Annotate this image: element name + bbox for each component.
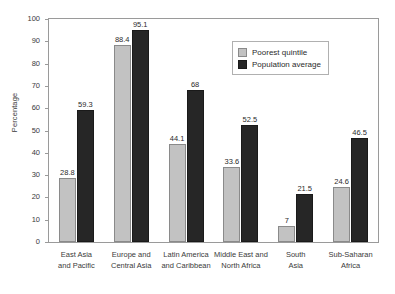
y-axis-tick-label: 60 (10, 104, 40, 112)
bar-value-label: 46.5 (346, 128, 373, 137)
legend-item[interactable]: Poorest quintile (238, 46, 321, 58)
legend-item-label: Population average (252, 60, 321, 69)
bar-value-label: 52.5 (236, 115, 263, 124)
y-axis-tick-label: 70 (10, 82, 40, 90)
bar-chart: Percentage 1009080706050403020100 28.859… (0, 0, 395, 294)
y-axis-tick-label: 0 (10, 238, 40, 246)
y-axis-tick-label: 30 (10, 171, 40, 179)
bar[interactable] (351, 138, 368, 242)
bar-value-label: 95.1 (127, 20, 154, 29)
bar[interactable] (296, 194, 313, 242)
legend-item-label: Poorest quintile (252, 48, 307, 57)
y-axis-tick-label: 90 (10, 37, 40, 45)
y-axis-tick-label: 40 (10, 149, 40, 157)
bar[interactable] (132, 30, 149, 242)
legend-item[interactable]: Population average (238, 58, 321, 70)
bar[interactable] (278, 226, 295, 242)
bar-group: 24.646.5 (323, 19, 378, 242)
x-axis-label-line: Africa (315, 261, 386, 272)
legend-swatch-icon (238, 60, 247, 69)
bar[interactable] (241, 125, 258, 242)
bar-value-label: 68 (182, 80, 209, 89)
bar[interactable] (223, 167, 240, 242)
y-axis-tick-label: 10 (10, 216, 40, 224)
legend-swatch-icon (238, 48, 247, 57)
y-axis-tick-label: 100 (10, 15, 40, 23)
bar[interactable] (169, 144, 186, 242)
bar-value-label: 21.5 (291, 184, 318, 193)
y-axis-tick-label: 20 (10, 193, 40, 201)
bar[interactable] (333, 187, 350, 242)
y-axis-tick-label: 50 (10, 127, 40, 135)
bar-group: 28.859.3 (49, 19, 104, 242)
bar[interactable] (114, 45, 131, 242)
x-axis-labels: East Asiaand PacificEurope andCentral As… (49, 250, 378, 290)
bar-group: 44.168 (159, 19, 214, 242)
chart-legend: Poorest quintilePopulation average (232, 41, 329, 75)
bar[interactable] (59, 178, 76, 242)
bar[interactable] (187, 90, 204, 242)
y-axis-tick-label: 80 (10, 60, 40, 68)
bar[interactable] (77, 110, 94, 242)
bar-group: 88.495.1 (104, 19, 159, 242)
x-axis-label: Sub-SaharanAfrica (315, 250, 386, 271)
x-axis-label-line: Sub-Saharan (315, 250, 386, 261)
bar-value-label: 59.3 (72, 100, 99, 109)
